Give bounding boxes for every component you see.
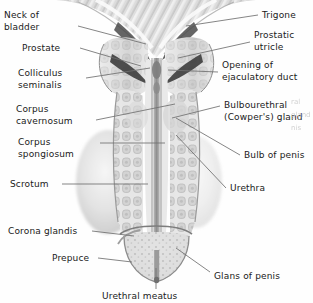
label-line: Corpus (18, 137, 74, 149)
label-prepuce: Prepuce (52, 253, 89, 265)
leader-prepuce (98, 258, 132, 262)
page-bleed-text: ral gland nis (291, 96, 313, 296)
label-line: Trigone (262, 10, 296, 22)
leader-opening-of-ejaculatory-duct (168, 70, 218, 72)
label-glans-of-penis: Glans of penis (214, 271, 280, 283)
label-line: Neck of (4, 10, 39, 22)
label-line: Prostate (22, 43, 60, 55)
label-line: Scrotum (10, 179, 49, 191)
label-line: Urethral meatus (102, 291, 177, 303)
leader-bulb-of-penis (176, 118, 240, 155)
leader-neck-of-bladder (78, 26, 146, 44)
label-line: cavernosum (16, 116, 73, 128)
label-line: Corona glandis (8, 226, 77, 238)
label-prostatic-utricle: Prostaticutricle (254, 30, 294, 53)
leader-prostatic-utricle (178, 42, 250, 58)
label-corona-glandis: Corona glandis (8, 226, 77, 238)
label-prostate: Prostate (22, 43, 60, 55)
label-line: Corpus (16, 104, 73, 116)
label-line: Prostatic (254, 30, 294, 42)
leader-glans-of-penis (176, 248, 210, 272)
label-line: ejaculatory duct (222, 72, 297, 84)
label-neck-of-bladder: Neck ofbladder (4, 10, 39, 33)
label-line: Colliculus (18, 68, 62, 80)
label-line: seminalis (18, 80, 62, 92)
label-line: Opening of (222, 60, 297, 72)
label-line: Prepuce (52, 253, 89, 265)
label-urethra: Urethra (230, 183, 265, 195)
label-corpus-spongiosum: Corpusspongiosum (18, 137, 74, 160)
label-urethral-meatus: Urethral meatus (102, 291, 177, 303)
label-corpus-cavernosum: Corpuscavernosum (16, 104, 73, 127)
label-colliculus-seminalis: Colliculusseminalis (18, 68, 62, 91)
label-scrotum: Scrotum (10, 179, 49, 191)
leader-corona-glandis (92, 231, 134, 236)
leader-trigone (186, 15, 258, 26)
leader-corpus-cavernosum (96, 104, 175, 120)
label-opening-of-ejaculatory-duct: Opening ofejaculatory duct (222, 60, 297, 83)
leader-bulbourethral-cowpers-gland (172, 106, 220, 118)
label-line: utricle (254, 42, 294, 54)
anatomical-figure: Neck ofbladderProstateColliculusseminali… (0, 0, 313, 303)
label-line: bladder (4, 22, 39, 34)
label-line: Urethra (230, 183, 265, 195)
leader-prostate (80, 48, 141, 66)
label-line: Glans of penis (214, 271, 280, 283)
label-trigone: Trigone (262, 10, 296, 22)
label-line: spongiosum (18, 149, 74, 161)
leader-colliculus-seminalis (86, 68, 150, 78)
